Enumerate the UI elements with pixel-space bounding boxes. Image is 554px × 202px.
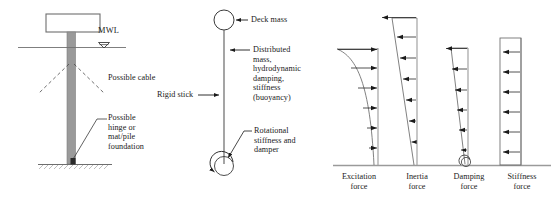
seabed-hatching xyxy=(39,165,108,169)
deck-box xyxy=(46,14,100,32)
right-panel-group xyxy=(333,18,551,167)
excitation-envelope xyxy=(337,49,374,165)
inertia-envelope xyxy=(392,18,414,165)
rotational-arc-arrow xyxy=(210,151,233,172)
deck-mass-circle xyxy=(214,10,234,30)
rigid-stick-label: Rigid stick xyxy=(157,90,193,100)
middle-panel-group xyxy=(198,10,252,176)
caption-damping-force: Damping force xyxy=(443,172,495,191)
dashed-cable-left xyxy=(38,64,69,94)
caption-excitation-force: Excitation force xyxy=(333,172,385,191)
diagram-damping-force xyxy=(446,48,471,167)
mwl-label: MWL xyxy=(98,26,119,36)
damping-envelope xyxy=(451,48,465,164)
caption-stiffness-force: Stiffness force xyxy=(497,172,547,191)
diagram-inertia-force xyxy=(382,18,417,166)
possible-foundation-label: Possible hinge or mat/pile foundation xyxy=(108,113,144,151)
stiffness-envelope xyxy=(500,38,521,165)
caption-inertia-force: Inertia force xyxy=(392,172,442,191)
diagram-excitation-force xyxy=(337,48,378,165)
rotational-stiffness-label: Rotational stiffness and damper xyxy=(254,126,296,155)
foundation-leader-line xyxy=(72,119,107,161)
gravity-column xyxy=(67,32,76,164)
deck-mass-label: Deck mass xyxy=(251,15,287,25)
dashed-cable-right xyxy=(74,64,105,94)
diagram-stiffness-force xyxy=(500,38,521,165)
technical-figure: MWL Possible cable Possible hinge or mat… xyxy=(0,0,554,202)
possible-cable-label: Possible cable xyxy=(108,73,155,83)
rotational-leader-line xyxy=(228,131,244,158)
column-base-marker xyxy=(71,158,76,165)
distributed-properties-label: Distributed mass, hydrodynamic damping, … xyxy=(253,45,301,103)
